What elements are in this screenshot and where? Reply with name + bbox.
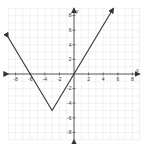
y-tick-label: 8 xyxy=(69,12,72,18)
y-axis-label: y xyxy=(75,8,79,14)
y-tick-label: 2 xyxy=(69,56,72,62)
y-tick-label: -8 xyxy=(67,129,72,135)
x-tick-label: -4 xyxy=(43,76,48,82)
x-tick-label: 2 xyxy=(87,76,90,82)
y-tick-label: 6 xyxy=(69,27,72,33)
coordinate-plane: -8-6-4-22468-8-6-4-22468xy xyxy=(0,0,143,144)
x-tick-label: -2 xyxy=(57,76,62,82)
y-tick-label: -6 xyxy=(67,115,72,121)
x-tick-label: -8 xyxy=(13,76,18,82)
x-tick-label: 4 xyxy=(102,76,105,82)
x-tick-label: 8 xyxy=(131,76,134,82)
y-tick-label: 4 xyxy=(69,42,72,48)
y-tick-label: -2 xyxy=(67,85,72,91)
y-tick-label: -4 xyxy=(67,100,72,106)
x-tick-label: 6 xyxy=(116,76,119,82)
x-axis-label: x xyxy=(135,67,139,73)
